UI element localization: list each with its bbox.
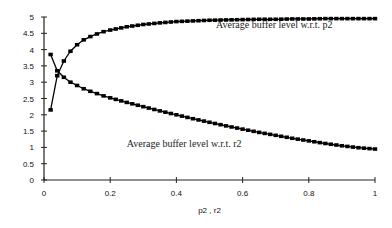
data-marker bbox=[296, 137, 300, 141]
data-marker bbox=[147, 106, 151, 110]
data-marker bbox=[367, 147, 371, 151]
x-tick-label: 0.8 bbox=[303, 189, 315, 198]
data-marker bbox=[174, 20, 178, 24]
data-marker bbox=[207, 18, 211, 22]
data-marker bbox=[202, 119, 206, 123]
data-marker bbox=[75, 84, 79, 88]
data-marker bbox=[163, 110, 167, 114]
data-marker bbox=[119, 26, 123, 30]
data-marker bbox=[169, 20, 173, 24]
data-marker bbox=[251, 130, 255, 134]
data-marker bbox=[329, 142, 333, 146]
y-tick-label: 3.5 bbox=[23, 62, 35, 71]
data-marker bbox=[158, 21, 162, 25]
y-tick-label: 1.5 bbox=[23, 127, 35, 136]
data-marker bbox=[307, 139, 311, 143]
data-marker bbox=[68, 49, 72, 53]
y-tick-label: 1 bbox=[30, 143, 35, 152]
data-marker bbox=[163, 21, 167, 25]
data-marker bbox=[334, 17, 338, 21]
data-marker bbox=[95, 92, 99, 96]
y-tick-label: 0 bbox=[30, 176, 35, 185]
data-marker bbox=[55, 74, 59, 78]
data-marker bbox=[130, 24, 134, 28]
y-tick-label: 4 bbox=[30, 46, 35, 55]
data-marker bbox=[191, 117, 195, 121]
data-marker bbox=[196, 118, 200, 122]
data-marker bbox=[274, 134, 278, 138]
data-marker bbox=[362, 146, 366, 150]
data-marker bbox=[75, 43, 79, 47]
data-marker bbox=[373, 147, 377, 151]
data-marker bbox=[345, 17, 349, 21]
data-marker bbox=[196, 19, 200, 23]
data-marker bbox=[356, 146, 360, 150]
data-marker bbox=[125, 101, 129, 105]
data-marker bbox=[141, 105, 145, 109]
data-marker bbox=[268, 133, 272, 137]
data-marker bbox=[180, 20, 184, 24]
data-marker bbox=[147, 22, 151, 26]
data-marker bbox=[174, 113, 178, 117]
data-marker bbox=[141, 23, 145, 27]
data-marker bbox=[279, 135, 283, 139]
x-tick-label: 1 bbox=[373, 189, 378, 198]
data-marker bbox=[323, 142, 327, 146]
data-marker bbox=[367, 17, 371, 21]
data-marker bbox=[62, 59, 66, 63]
data-marker bbox=[257, 131, 261, 135]
x-tick-label: 0 bbox=[42, 189, 47, 198]
series-group bbox=[48, 17, 377, 151]
data-marker bbox=[152, 22, 156, 26]
data-marker bbox=[119, 99, 123, 103]
data-marker bbox=[301, 138, 305, 142]
data-marker bbox=[224, 124, 228, 128]
data-marker bbox=[312, 140, 316, 144]
data-marker bbox=[185, 19, 189, 23]
data-marker bbox=[136, 103, 140, 107]
data-marker bbox=[48, 53, 52, 57]
data-marker bbox=[55, 69, 59, 73]
data-marker bbox=[95, 32, 99, 36]
data-marker bbox=[152, 108, 156, 112]
data-marker bbox=[340, 17, 344, 21]
data-marker bbox=[101, 94, 105, 98]
data-marker bbox=[262, 132, 266, 136]
data-marker bbox=[88, 35, 92, 39]
data-marker bbox=[246, 128, 250, 132]
data-marker bbox=[351, 145, 355, 149]
data-marker bbox=[235, 126, 239, 130]
data-marker bbox=[334, 143, 338, 147]
x-tick-label: 0.4 bbox=[171, 189, 183, 198]
data-marker bbox=[185, 116, 189, 120]
data-marker bbox=[130, 102, 134, 106]
data-marker bbox=[351, 17, 355, 21]
data-marker bbox=[207, 120, 211, 124]
data-marker bbox=[218, 123, 222, 127]
y-tick-label: 0.5 bbox=[23, 160, 35, 169]
labels-group: Average buffer level w.r.t. p2Average bu… bbox=[127, 19, 333, 149]
data-marker bbox=[345, 145, 349, 149]
data-marker bbox=[108, 28, 112, 32]
y-tick-label: 2 bbox=[30, 111, 35, 120]
y-tick-label: 2.5 bbox=[23, 95, 35, 104]
data-marker bbox=[373, 17, 377, 21]
data-marker bbox=[136, 23, 140, 27]
data-marker bbox=[240, 127, 244, 131]
data-marker bbox=[48, 108, 52, 112]
data-marker bbox=[318, 141, 322, 145]
data-marker bbox=[285, 135, 289, 139]
data-marker bbox=[158, 109, 162, 113]
data-marker bbox=[108, 96, 112, 100]
series-line-r2 bbox=[51, 54, 375, 149]
data-marker bbox=[180, 114, 184, 118]
line-chart: 00.511.522.533.544.5500.20.40.60.81p2 , … bbox=[0, 0, 392, 228]
data-marker bbox=[229, 125, 233, 129]
y-tick-label: 4.5 bbox=[23, 29, 35, 38]
data-marker bbox=[62, 76, 66, 80]
data-marker bbox=[340, 144, 344, 148]
data-marker bbox=[101, 30, 105, 34]
data-marker bbox=[82, 38, 86, 42]
data-marker bbox=[213, 122, 217, 126]
x-tick-label: 0.2 bbox=[105, 189, 117, 198]
